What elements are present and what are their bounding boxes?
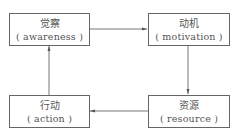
node-motivation-zh: 动机 bbox=[179, 17, 199, 30]
node-motivation: 动机 ( motivation ) bbox=[148, 13, 230, 46]
node-action: 行动 ( action ) bbox=[9, 95, 90, 128]
node-awareness-zh: 觉察 bbox=[40, 17, 60, 30]
node-resource-zh: 资源 bbox=[179, 99, 199, 112]
node-awareness-en: ( awareness ) bbox=[16, 30, 83, 43]
node-resource-en: ( resource ) bbox=[160, 112, 218, 125]
node-action-en: ( action ) bbox=[27, 112, 72, 125]
node-motivation-en: ( motivation ) bbox=[155, 30, 223, 43]
node-resource: 资源 ( resource ) bbox=[148, 95, 230, 128]
node-awareness: 觉察 ( awareness ) bbox=[9, 13, 90, 46]
node-action-zh: 行动 bbox=[40, 99, 60, 112]
